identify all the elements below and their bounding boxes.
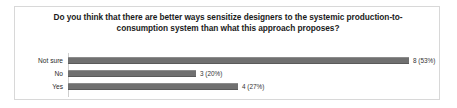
bar-row: Not sure 8 (53%) [15,55,441,68]
category-label-no: No [15,70,63,78]
category-label-yes: Yes [15,83,63,91]
plot-area: Not sure 8 (53%) No 3 (20%) Yes 4 (27%) [15,52,441,101]
bar-not-sure [68,57,409,64]
bar-value-no: 3 (20%) [200,70,222,78]
bar-yes [68,83,238,90]
bar-no [68,70,196,77]
chart-title: Do you think that there are better ways … [35,12,421,34]
chart-container: Do you think that there are better ways … [14,6,440,100]
bar-value-not-sure: 8 (53%) [413,57,435,65]
bar-row: No 3 (20%) [15,68,441,81]
category-label-not-sure: Not sure [15,57,63,65]
bar-row: Yes 4 (27%) [15,81,441,94]
bar-value-yes: 4 (27%) [242,83,264,91]
